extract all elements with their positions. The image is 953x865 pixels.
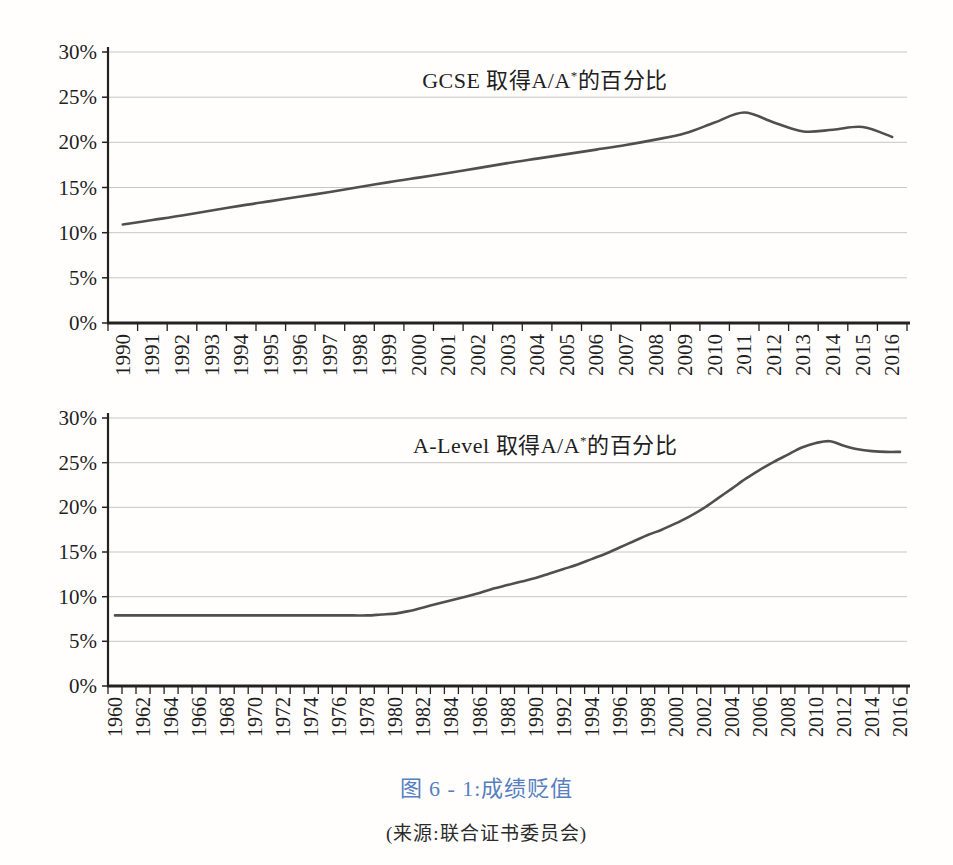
x-axis-label: 2016: [889, 697, 911, 737]
x-axis-label: 2009: [673, 334, 697, 376]
x-axis-label: 1997: [318, 334, 342, 376]
y-axis-label: 30%: [59, 406, 98, 430]
y-axis-label: 10%: [59, 221, 98, 245]
x-axis-label: 1993: [200, 334, 224, 376]
x-axis-label: 2016: [880, 334, 904, 376]
x-axis-label: 1995: [259, 334, 283, 376]
x-axis-label: 2003: [496, 334, 520, 376]
x-axis-label: 2006: [749, 697, 771, 737]
x-axis-label: 1990: [525, 697, 547, 737]
x-axis-label: 2000: [665, 697, 687, 737]
alevel-title-text: A-Level 取得A/A: [413, 433, 580, 458]
gcse-chart-title: GCSE 取得A/A*的百分比: [170, 62, 920, 94]
x-axis-label: 1960: [104, 697, 126, 737]
alevel-title-suffix: 的百分比: [587, 433, 677, 458]
x-axis-label: 2000: [407, 334, 431, 376]
x-axis-label: 1998: [637, 697, 659, 737]
alevel-line: [115, 441, 900, 615]
x-axis-label: 1976: [328, 697, 350, 737]
x-axis-label: 1994: [229, 334, 253, 377]
x-axis-label: 1978: [356, 697, 378, 737]
figure-source: (来源:联合证书委员会): [20, 818, 953, 845]
y-axis-label: 30%: [59, 40, 98, 64]
gcse-title-text: GCSE 取得A/A: [422, 68, 571, 93]
x-axis-label: 2015: [851, 334, 875, 376]
x-axis-label: 1988: [497, 697, 519, 737]
x-axis-label: 2004: [525, 334, 549, 377]
x-axis-label: 2002: [693, 697, 715, 737]
x-axis-label: 1996: [288, 334, 312, 376]
x-axis-label: 2012: [833, 697, 855, 737]
figure-caption: 图 6 - 1:成绩贬值: [20, 770, 953, 802]
x-axis-label: 2014: [861, 697, 883, 737]
x-axis-label: 1970: [244, 697, 266, 737]
y-axis-label: 15%: [59, 176, 98, 200]
x-axis-label: 2010: [703, 334, 727, 376]
x-axis-label: 2013: [791, 334, 815, 376]
x-axis-label: 1974: [300, 697, 322, 737]
x-axis-label: 1998: [348, 334, 372, 376]
y-axis-label: 15%: [59, 540, 98, 564]
x-axis-label: 1982: [412, 697, 434, 737]
alevel-chart-title: A-Level 取得A/A*的百分比: [170, 427, 920, 459]
x-axis-label: 1972: [272, 697, 294, 737]
x-axis-label: 2006: [584, 334, 608, 376]
x-axis-label: 2010: [805, 697, 827, 737]
gcse-line: [123, 113, 892, 225]
y-axis-label: 0%: [69, 311, 97, 335]
x-axis-label: 1986: [469, 697, 491, 737]
x-axis-label: 1962: [132, 697, 154, 737]
gcse-title-superscript: *: [571, 68, 578, 83]
y-axis-label: 25%: [59, 451, 98, 475]
x-axis-label: 2002: [466, 334, 490, 376]
y-axis-label: 25%: [59, 85, 98, 109]
x-axis-label: 2007: [614, 334, 638, 376]
x-axis-label: 2004: [721, 697, 743, 737]
x-axis-label: 1994: [581, 697, 603, 737]
y-axis-label: 5%: [69, 629, 97, 653]
x-axis-label: 2012: [762, 334, 786, 376]
y-axis-label: 10%: [59, 585, 98, 609]
y-axis-label: 0%: [69, 674, 97, 698]
x-axis-label: 1996: [609, 697, 631, 737]
y-axis-label: 20%: [59, 495, 98, 519]
x-axis-label: 2001: [436, 334, 460, 376]
x-axis-label: 2014: [821, 334, 845, 377]
y-axis-label: 5%: [69, 266, 97, 290]
x-axis-label: 1992: [553, 697, 575, 737]
x-axis-label: 1968: [216, 697, 238, 737]
x-axis-label: 2008: [644, 334, 668, 376]
x-axis-label: 2005: [555, 334, 579, 376]
x-axis-label: 2008: [777, 697, 799, 737]
x-axis-label: 1964: [160, 697, 182, 737]
x-axis-label: 1984: [440, 697, 462, 737]
x-axis-label: 1980: [384, 697, 406, 737]
x-axis-label: 1991: [140, 334, 164, 376]
x-axis-label: 1999: [377, 334, 401, 376]
x-axis-label: 1990: [111, 334, 135, 376]
y-axis-label: 20%: [59, 130, 98, 154]
gcse-title-suffix: 的百分比: [578, 68, 668, 93]
book-page: 0%5%10%15%20%25%30%199019911992199319941…: [0, 0, 953, 865]
x-axis-label: 1992: [170, 334, 194, 376]
x-axis-label: 1966: [188, 697, 210, 737]
x-axis-label: 2011: [732, 334, 756, 375]
